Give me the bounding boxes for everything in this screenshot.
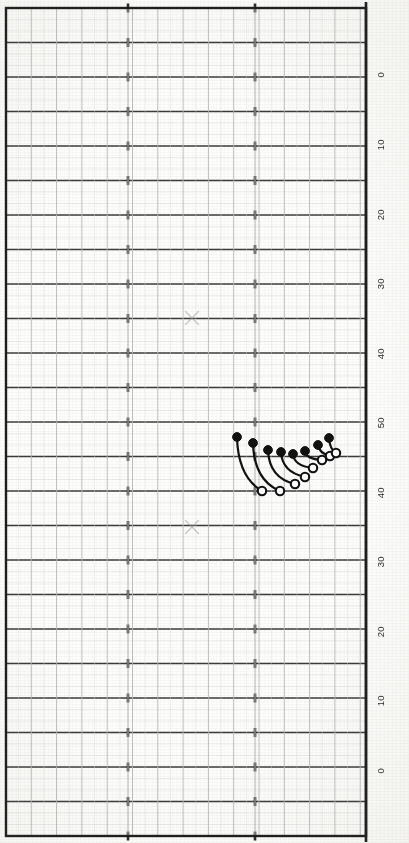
marker-filled-5 [289,450,298,459]
marker-filled-3 [264,446,273,455]
marker-open-2 [276,487,284,495]
marker-filled-6 [301,447,310,456]
marker-filled-2 [249,439,258,448]
marker-filled-1 [233,433,242,442]
grid-chart-svg [0,0,409,843]
marker-filled-8 [325,434,334,443]
marker-open-1 [258,487,266,495]
marker-open-4 [301,473,309,481]
marker-open-5 [309,464,317,472]
marker-open-3 [291,480,299,488]
marker-filled-7 [314,441,323,450]
marker-filled-4 [277,448,286,457]
chart-canvas: 01020304050403020100 [0,0,409,843]
marker-open-8 [332,449,340,457]
